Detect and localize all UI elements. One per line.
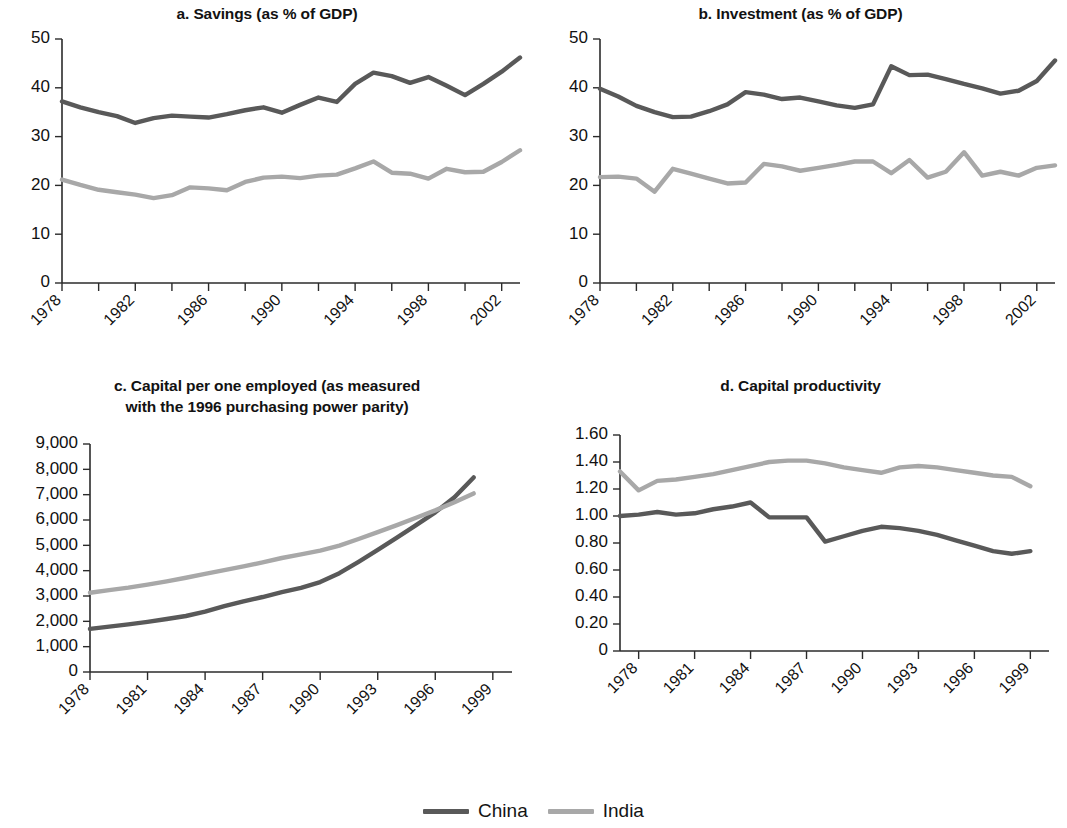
- x-tick-label: 1990: [783, 291, 820, 328]
- x-tick-label: 1994: [320, 291, 357, 328]
- y-tick-label: 40: [569, 77, 588, 96]
- y-tick-label: 6,000: [35, 509, 78, 528]
- y-tick-label: 30: [569, 126, 588, 145]
- x-tick-label: 1999: [995, 659, 1032, 696]
- svg-c-content: 01,0002,0003,0004,0005,0006,0007,0008,00…: [35, 433, 512, 717]
- x-tick-label: 1994: [856, 291, 893, 328]
- series-line-india: [90, 493, 474, 592]
- series-line-india: [600, 152, 1055, 192]
- y-tick-label: 0.60: [575, 559, 608, 578]
- y-tick-label: 0.80: [575, 532, 608, 551]
- y-tick-label: 0: [41, 272, 50, 291]
- y-tick-label: 50: [31, 28, 50, 47]
- series-line-china: [90, 477, 474, 628]
- panel-c-capital-per-employed: c. Capital per one employed (as measured…: [0, 376, 534, 776]
- y-tick-label: 8,000: [35, 459, 78, 478]
- panel-d-capital-productivity: d. Capital productivity 00.200.400.600.8…: [534, 376, 1067, 776]
- x-tick-label: 1990: [247, 291, 284, 328]
- x-tick-label: 1984: [715, 659, 752, 696]
- y-tick-label: 1.40: [575, 451, 608, 470]
- x-tick-label: 1990: [827, 659, 864, 696]
- panel-a-savings: a. Savings (as % of GDP) 010203040501978…: [0, 4, 534, 364]
- x-tick-label: 1986: [173, 291, 210, 328]
- y-tick-label: 0: [579, 272, 588, 291]
- svg-b-content: 010203040501978198219861990199419982002: [565, 28, 1055, 328]
- y-tick-label: 10: [31, 224, 50, 243]
- x-tick-label: 1978: [604, 659, 641, 696]
- y-tick-label: 9,000: [35, 433, 78, 452]
- y-tick-label: 10: [569, 224, 588, 243]
- legend-item-china: China: [423, 800, 528, 822]
- x-tick-label: 1996: [400, 680, 437, 717]
- panel-a-title: a. Savings (as % of GDP): [0, 4, 534, 25]
- x-tick-label: 1978: [27, 291, 64, 328]
- y-tick-label: 30: [31, 126, 50, 145]
- x-tick-label: 1998: [929, 291, 966, 328]
- series-line-china: [62, 57, 520, 122]
- x-tick-label: 1978: [565, 291, 602, 328]
- x-tick-label: 1999: [458, 680, 495, 717]
- legend-swatch-china: [423, 809, 469, 814]
- y-tick-label: 40: [31, 77, 50, 96]
- y-tick-label: 5,000: [35, 535, 78, 554]
- panel-d-plot: 00.200.400.600.801.001.201.401.601978198…: [534, 397, 1067, 727]
- four-panel-chart-figure: a. Savings (as % of GDP) 010203040501978…: [0, 0, 1067, 828]
- panel-d-svg: 00.200.400.600.801.001.201.401.601978198…: [534, 397, 1067, 727]
- x-tick-label: 1978: [55, 680, 92, 717]
- panel-c-svg: 01,0002,0003,0004,0005,0006,0007,0008,00…: [0, 418, 534, 748]
- x-tick-label: 1996: [939, 659, 976, 696]
- x-tick-label: 1981: [660, 659, 697, 696]
- x-tick-label: 1990: [285, 680, 322, 717]
- y-tick-label: 1.00: [575, 505, 608, 524]
- figure-legend: China India: [0, 800, 1067, 822]
- y-tick-label: 20: [31, 175, 50, 194]
- y-tick-label: 0: [69, 661, 78, 680]
- x-tick-label: 1982: [638, 291, 675, 328]
- panel-b-svg: 010203040501978198219861990199419982002: [534, 25, 1067, 355]
- x-tick-label: 1987: [228, 680, 265, 717]
- panel-c-plot: 01,0002,0003,0004,0005,0006,0007,0008,00…: [0, 418, 534, 748]
- x-tick-label: 1982: [100, 291, 137, 328]
- panel-b-title: b. Investment (as % of GDP): [534, 4, 1067, 25]
- x-tick-label: 1993: [883, 659, 920, 696]
- y-tick-label: 2,000: [35, 611, 78, 630]
- panel-d-title: d. Capital productivity: [534, 376, 1067, 397]
- y-tick-label: 1.20: [575, 478, 608, 497]
- series-line-india: [62, 150, 520, 198]
- legend-swatch-india: [548, 809, 594, 814]
- panel-a-plot: 010203040501978198219861990199419982002: [0, 25, 534, 355]
- panel-a-svg: 010203040501978198219861990199419982002: [0, 25, 534, 355]
- legend-label-india: India: [603, 800, 644, 822]
- series-line-china: [600, 60, 1055, 117]
- legend-item-india: India: [548, 800, 644, 822]
- x-tick-label: 1993: [343, 680, 380, 717]
- svg-a-content: 010203040501978198219861990199419982002: [27, 28, 520, 328]
- y-tick-label: 0.40: [575, 586, 608, 605]
- series-line-china: [620, 502, 1030, 553]
- y-tick-label: 0: [599, 640, 608, 659]
- x-tick-label: 1998: [393, 291, 430, 328]
- y-tick-label: 20: [569, 175, 588, 194]
- x-tick-label: 1981: [112, 680, 149, 717]
- panel-c-title: c. Capital per one employed (as measured…: [0, 376, 534, 418]
- y-tick-label: 1.60: [575, 424, 608, 443]
- panel-b-plot: 010203040501978198219861990199419982002: [534, 25, 1067, 355]
- x-tick-label: 1987: [771, 659, 808, 696]
- y-tick-label: 0.20: [575, 613, 608, 632]
- svg-d-content: 00.200.400.600.801.001.201.401.601978198…: [575, 424, 1049, 696]
- panel-b-investment: b. Investment (as % of GDP) 010203040501…: [534, 4, 1067, 364]
- series-line-india: [620, 461, 1030, 491]
- x-tick-label: 2002: [1002, 291, 1039, 328]
- x-tick-label: 1984: [170, 680, 207, 717]
- y-tick-label: 7,000: [35, 484, 78, 503]
- y-tick-label: 4,000: [35, 560, 78, 579]
- legend-label-china: China: [478, 800, 528, 822]
- x-tick-label: 1986: [711, 291, 748, 328]
- y-tick-label: 1,000: [35, 636, 78, 655]
- y-tick-label: 3,000: [35, 585, 78, 604]
- x-tick-label: 2002: [467, 291, 504, 328]
- y-tick-label: 50: [569, 28, 588, 47]
